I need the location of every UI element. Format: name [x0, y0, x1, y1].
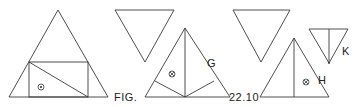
triangle-h: H	[260, 38, 329, 97]
inverted-triangle-k: K	[309, 29, 350, 64]
geometry-figure: G H K FIG. 22.10	[0, 0, 359, 107]
inverted-triangle-1	[115, 10, 174, 62]
inverted-triangle-2	[233, 10, 290, 62]
circled-cross-icon	[169, 71, 175, 77]
large-triangle-with-rectangle	[9, 10, 108, 97]
triangle-h-outline	[260, 38, 329, 97]
large-triangle-outline	[9, 10, 108, 97]
triangle-g-right-perpendicular	[185, 81, 214, 97]
circled-dot-icon	[38, 84, 44, 90]
triangle-g-left-perpendicular	[155, 81, 185, 97]
caption-fig: FIG.	[114, 91, 137, 103]
label-h: H	[318, 74, 326, 86]
figure-svg: G H K FIG. 22.10	[0, 0, 359, 107]
label-k: K	[342, 45, 350, 57]
circled-cross-icon	[303, 79, 309, 85]
label-g: G	[207, 57, 216, 69]
vertex-dot	[328, 62, 330, 64]
rectangle-diagonal	[29, 62, 88, 97]
caption-number: 22.10	[229, 91, 259, 103]
